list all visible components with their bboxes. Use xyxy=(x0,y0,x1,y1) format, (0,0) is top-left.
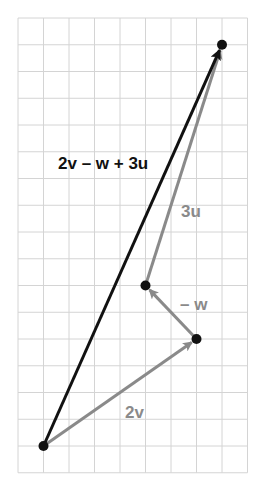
vector-3u-label: 3u xyxy=(181,202,201,221)
point-after-minus-w xyxy=(141,281,151,291)
end-point xyxy=(217,40,227,50)
resultant-label: 2v – w + 3u xyxy=(58,154,148,173)
vector-3u-arrow xyxy=(146,50,221,285)
vector-diagram: 2v – w + 3u 3u – w 2v xyxy=(0,0,255,501)
vectors xyxy=(44,50,221,446)
point-after-2v xyxy=(192,334,202,344)
resultant-vector-arrow xyxy=(44,50,220,446)
start-point xyxy=(39,441,49,451)
vector-2v-label: 2v xyxy=(125,403,144,422)
vector-minus-w-label: – w xyxy=(180,295,208,314)
